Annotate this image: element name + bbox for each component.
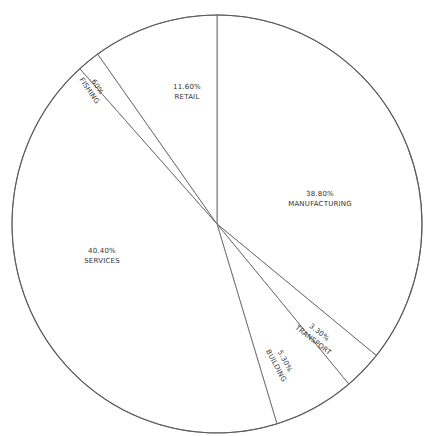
pie-chart: 38.80% MANUFACTURING 3.30% TRANSPORT 5.3… [0,0,425,436]
value-manufacturing: 38.80% [306,190,334,198]
pie-slices [12,15,422,433]
name-retail: RETAIL [175,93,200,101]
name-manufacturing: MANUFACTURING [288,200,352,208]
name-services: SERVICES [84,257,120,265]
value-retail: 11.60% [173,83,201,91]
value-services: 40.40% [88,247,116,255]
